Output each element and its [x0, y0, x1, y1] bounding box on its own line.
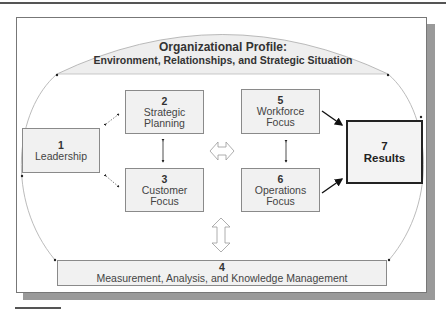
box-operations-focus: 6 Operations Focus	[241, 168, 320, 212]
box-label-line: Focus	[266, 196, 295, 207]
box-number: 7	[381, 140, 387, 152]
box-number: 6	[278, 174, 284, 185]
box-label-line: Strategic	[144, 107, 185, 118]
profile-title: Organizational Profile:	[60, 40, 386, 54]
box-label: Leadership	[35, 151, 87, 162]
box-strategic-planning: 2 Strategic Planning	[125, 90, 204, 134]
box-results: 7 Results	[346, 120, 423, 184]
box-label: Measurement, Analysis, and Knowledge Man…	[97, 273, 348, 284]
box-customer-focus: 3 Customer Focus	[125, 168, 204, 212]
box-label-line: Customer	[142, 185, 188, 196]
box-label-line: Focus	[150, 196, 179, 207]
organizational-profile: Organizational Profile: Environment, Rel…	[60, 40, 386, 67]
box-label-line: Operations	[255, 185, 306, 196]
box-leadership: 1 Leadership	[22, 128, 100, 173]
box-number: 2	[162, 96, 168, 107]
box-label-line: Focus	[266, 117, 295, 128]
box-label: Results	[364, 152, 406, 164]
box-workforce-focus: 5 Workforce Focus	[241, 89, 320, 134]
box-label-line: Planning	[144, 118, 185, 129]
double-arrow-vertical-icon	[212, 218, 230, 252]
box-number: 3	[162, 174, 168, 185]
double-arrow-horizontal-icon	[210, 142, 234, 160]
footnote-rule	[15, 307, 61, 309]
box-number: 1	[58, 140, 64, 151]
profile-subtitle: Environment, Relationships, and Strategi…	[60, 54, 386, 67]
box-measurement: 4 Measurement, Analysis, and Knowledge M…	[57, 260, 387, 286]
